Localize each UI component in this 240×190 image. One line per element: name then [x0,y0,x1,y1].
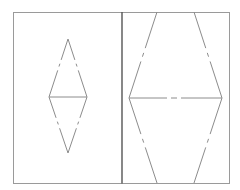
diamond-edge-lower-left [49,97,68,153]
diamond-edge-upper-right [68,39,87,97]
diamond-edge-upper-left [49,39,68,97]
right-hexagon [129,12,222,183]
diamond-edge-lower-right [68,97,87,153]
hexagon-edge-lower-right [194,98,222,183]
diagram-canvas [0,0,240,190]
hexagon-edge-upper-left [129,12,157,98]
hexagon-edge-lower-left [129,98,157,183]
left-diamond [49,39,87,153]
hexagon-edge-upper-right [194,12,222,98]
